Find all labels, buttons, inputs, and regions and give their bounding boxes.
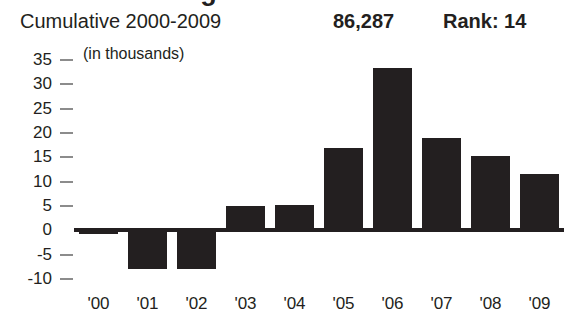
bar-00 bbox=[79, 230, 118, 234]
rank-badge: Rank: 14 bbox=[443, 10, 526, 33]
y-axis-tick-label: -10 bbox=[0, 270, 52, 287]
chart-header: Cumulative 2000-2009 86,287 Rank: 14 bbox=[0, 9, 578, 43]
x-axis-tick-label: '01 bbox=[123, 295, 172, 312]
x-axis-tick-label: '07 bbox=[417, 295, 466, 312]
x-axis-tick-label: '08 bbox=[466, 295, 515, 312]
plot-area bbox=[74, 43, 564, 293]
x-axis-tick-label: '04 bbox=[270, 295, 319, 312]
y-axis-tick-mark bbox=[60, 156, 73, 158]
x-axis-tick-label: '05 bbox=[319, 295, 368, 312]
cut-off-title-text: Net Migration bbox=[118, 0, 293, 7]
y-axis-tick-label: 5 bbox=[0, 197, 52, 214]
x-axis-tick-label: '00 bbox=[74, 295, 123, 312]
y-axis-tick-mark bbox=[60, 181, 73, 183]
cut-off-title: Net Migration bbox=[0, 0, 578, 9]
bar-05 bbox=[324, 148, 363, 231]
bar-09 bbox=[520, 174, 559, 230]
y-axis-tick-mark bbox=[60, 108, 73, 110]
bar-08 bbox=[471, 156, 510, 230]
cumulative-label: Cumulative 2000-2009 bbox=[20, 10, 221, 33]
x-axis-tick-label: '03 bbox=[221, 295, 270, 312]
y-axis-tick-label: 15 bbox=[0, 148, 52, 165]
bar-03 bbox=[226, 206, 265, 230]
x-axis-tick-label: '02 bbox=[172, 295, 221, 312]
y-axis-tick-label: 30 bbox=[0, 75, 52, 92]
bar-04 bbox=[275, 205, 314, 230]
y-axis-tick-label: 10 bbox=[0, 173, 52, 190]
y-axis-tick-mark bbox=[60, 205, 73, 207]
x-axis-tick-label: '09 bbox=[515, 295, 564, 312]
y-axis-tick-mark bbox=[60, 278, 73, 280]
bar-06 bbox=[373, 68, 412, 230]
y-axis-tick-mark bbox=[60, 83, 73, 85]
y-axis-tick-label: 35 bbox=[0, 51, 52, 68]
bar-chart: (in thousands) 35302520151050-5-10 '00'0… bbox=[0, 43, 578, 335]
y-axis-tick-label: 25 bbox=[0, 100, 52, 117]
y-axis-tick-mark bbox=[60, 254, 73, 256]
bar-02 bbox=[177, 230, 216, 269]
x-axis-tick-label: '06 bbox=[368, 295, 417, 312]
bar-07 bbox=[422, 138, 461, 230]
bar-01 bbox=[128, 230, 167, 269]
y-axis-tick-mark bbox=[60, 59, 73, 61]
y-axis-tick-label: -5 bbox=[0, 246, 52, 263]
y-axis-tick-label: 20 bbox=[0, 124, 52, 141]
y-axis-tick-mark bbox=[60, 132, 73, 134]
y-axis-tick-label: 0 bbox=[0, 221, 52, 238]
cumulative-value: 86,287 bbox=[333, 10, 394, 33]
